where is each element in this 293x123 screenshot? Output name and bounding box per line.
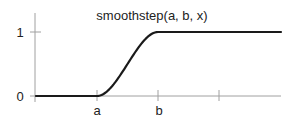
x-tick-label: a [93, 103, 101, 118]
x-tick-b: b [155, 90, 162, 118]
chart: smoothstep(a, b, x) 1 0 a b [0, 0, 293, 123]
y-tick-1: 1 [16, 25, 41, 40]
x-tick-a: a [93, 90, 101, 118]
x-tick-label: b [155, 103, 162, 118]
smoothstep-curve [36, 32, 281, 96]
chart-title: smoothstep(a, b, x) [96, 8, 207, 23]
y-tick-label: 0 [16, 89, 23, 104]
y-tick-label: 1 [16, 25, 23, 40]
